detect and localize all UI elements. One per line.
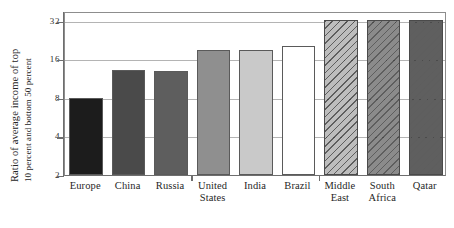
x-tick-mark-6 [319, 176, 320, 181]
bar-brazil [282, 46, 316, 175]
x-tick-mark-3 [191, 176, 192, 181]
bar-chart-figure: Ratio of average income of top 10 percen… [0, 0, 454, 228]
x-tick-label-qatar: Qatar [400, 180, 450, 192]
y-tick-mark-32 [57, 22, 64, 23]
x-axis-tick-labels: EuropeChinaRussiaUnitedStatesIndiaBrazil… [64, 180, 446, 224]
y-axis-tick-labels: 2481632 [38, 0, 60, 228]
bar-south-africa [367, 20, 401, 175]
y-tick-mark-8 [57, 99, 64, 100]
bar-russia [154, 71, 188, 175]
y-axis-title-line-2: 10 percent and bottom 50 percent [23, 58, 33, 182]
plot-area [64, 12, 446, 176]
bar-india [239, 50, 273, 175]
y-tick-mark-4 [57, 137, 64, 138]
y-axis-title-line-1: Ratio of average income of top [9, 49, 20, 182]
bar-middle-east [324, 20, 358, 175]
x-tick-label-line: Africa [357, 192, 407, 204]
x-tick-label-line: Qatar [400, 180, 450, 192]
x-tick-label-line: States [187, 192, 237, 204]
bar-qatar [409, 20, 443, 175]
bar-europe [69, 98, 103, 175]
y-tick-mark-2 [57, 176, 64, 177]
y-tick-mark-16 [57, 60, 64, 61]
bar-china [112, 70, 146, 175]
bar-united-states [197, 50, 231, 175]
